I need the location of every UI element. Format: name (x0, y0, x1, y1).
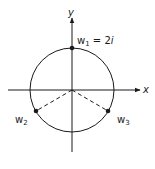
label-w2: w2 (15, 114, 28, 127)
point-w3 (106, 109, 111, 114)
point-w2 (34, 109, 39, 114)
point-w1 (70, 46, 75, 51)
dashed-radius-w3 (72, 90, 108, 111)
label-w1: w1 = 2i (77, 35, 114, 48)
x-axis-label: x (142, 84, 149, 95)
complex-plane-diagram: y x w1 = 2i w2 w3 (0, 0, 155, 169)
label-w3: w3 (117, 114, 130, 127)
y-axis-label: y (67, 7, 75, 18)
dashed-radius-w2 (36, 90, 72, 111)
